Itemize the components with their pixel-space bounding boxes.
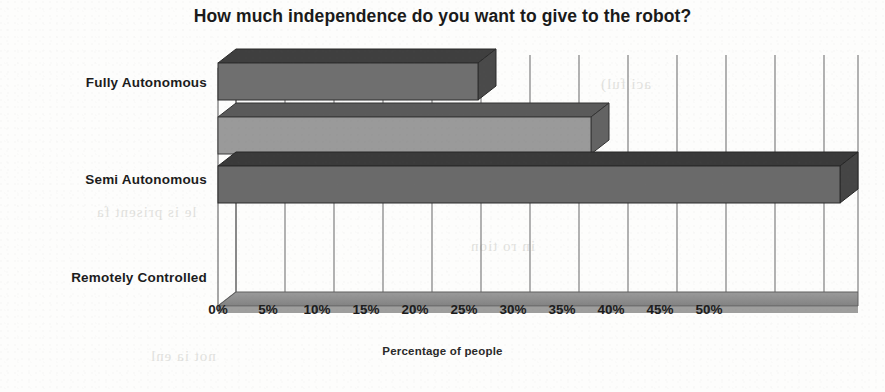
x-tick-label: 25% [441, 302, 487, 317]
x-tick-label: 10% [294, 302, 340, 317]
chart-labels: Fully Autonomous Semi Autonomous Remotel… [0, 0, 885, 392]
chart-page: aci ful) sumnu nt oliman a tik pus le is… [0, 0, 885, 392]
x-tick-label: 20% [392, 302, 438, 317]
x-tick-label: 0% [195, 302, 241, 317]
x-axis-title: Percentage of people [0, 345, 885, 357]
x-tick-label: 30% [490, 302, 536, 317]
x-tick-label: 45% [637, 302, 683, 317]
x-tick-label: 5% [245, 302, 291, 317]
chart-title: How much independence do you want to giv… [0, 6, 885, 27]
x-tick-label: 40% [588, 302, 634, 317]
x-tick-label: 15% [343, 302, 389, 317]
y-axis-label-fully-autonomous: Fully Autonomous [86, 75, 207, 90]
y-axis-label-remotely-controlled: Remotely Controlled [71, 270, 207, 285]
y-axis-label-semi-autonomous: Semi Autonomous [85, 172, 207, 187]
x-tick-label: 35% [539, 302, 585, 317]
x-tick-label: 50% [686, 302, 732, 317]
